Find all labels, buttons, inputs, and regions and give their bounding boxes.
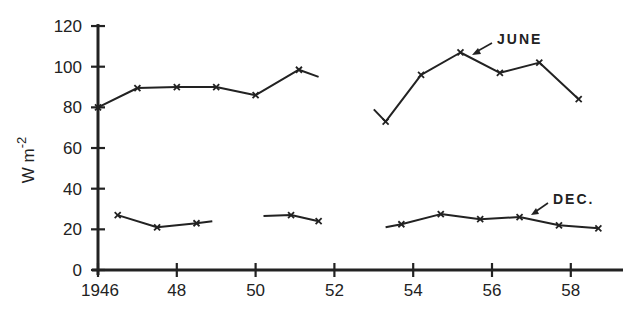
y-axis-label-main: W m <box>19 148 38 183</box>
svg-text:W m-2: W m-2 <box>14 137 38 184</box>
x-tick-label: 52 <box>325 281 344 300</box>
y-axis-label-exponent: -2 <box>14 137 29 149</box>
x-marker <box>418 72 424 78</box>
june-label: JUNE <box>497 31 542 47</box>
dec-label: DEC. <box>553 191 594 207</box>
y-tick-label: 40 <box>63 180 82 199</box>
y-tick-label: 20 <box>63 220 82 239</box>
x-marker <box>576 96 582 102</box>
x-marker <box>383 119 389 125</box>
x-tick-label: 58 <box>561 281 580 300</box>
dec-arrow-head <box>531 208 539 215</box>
y-axis-label: W m-2 <box>14 137 38 184</box>
series-line <box>374 53 579 122</box>
axes <box>92 24 623 275</box>
annotations: JUNE DEC. <box>472 31 594 215</box>
y-tick-label: 100 <box>54 58 82 77</box>
x-tick-label: 48 <box>167 281 186 300</box>
y-tick-label: 80 <box>63 98 82 117</box>
series-layer <box>95 49 601 231</box>
y-tick-label: 60 <box>63 139 82 158</box>
x-tick-label: 54 <box>404 281 423 300</box>
series-dec <box>115 211 602 231</box>
x-tick-label: 50 <box>246 281 265 300</box>
x-tick-label: 1946 <box>81 281 119 300</box>
line-chart: 0204060801001201946485052545658 JUNE DEC… <box>0 0 638 317</box>
series-line <box>386 214 599 228</box>
x-tick-label: 56 <box>483 281 502 300</box>
y-tick-label: 0 <box>73 261 82 280</box>
series-line <box>98 70 319 108</box>
y-tick-label: 120 <box>54 17 82 36</box>
axis-ticks: 0204060801001201946485052545658 <box>54 17 581 300</box>
series-june <box>95 49 582 124</box>
